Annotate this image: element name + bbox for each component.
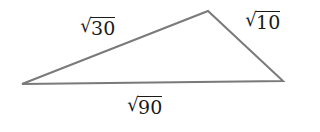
radicand: 10 bbox=[256, 11, 280, 32]
radicand: 30 bbox=[91, 17, 115, 38]
radicand: 90 bbox=[138, 96, 162, 117]
side-label-sqrt10: √10 bbox=[245, 10, 280, 32]
radical-sign: √ bbox=[80, 16, 92, 35]
triangle bbox=[22, 11, 283, 84]
side-label-sqrt30: √30 bbox=[80, 16, 115, 38]
radical-sign: √ bbox=[245, 10, 257, 29]
side-label-sqrt90: √90 bbox=[127, 95, 162, 117]
radical-sign: √ bbox=[127, 95, 139, 114]
